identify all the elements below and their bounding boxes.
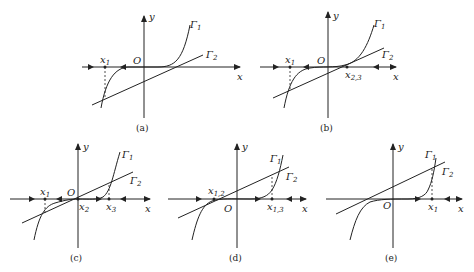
origin-label: O: [224, 203, 232, 214]
caption-e: (e): [385, 253, 397, 263]
x-axis-label: x: [237, 71, 243, 82]
arrow-right: [196, 196, 202, 202]
arrow-right: [96, 196, 102, 202]
y-axis-label: y: [397, 141, 404, 152]
arrow-left: [56, 196, 62, 202]
y-axis-label: y: [82, 141, 89, 152]
x1-label: x1: [428, 201, 438, 214]
gamma1-label: Γ1: [121, 149, 133, 162]
diagram-canvas: y x O Γ1 Γ2 x1 (a) y x O Γ1 Γ2 x1 x2,3: [0, 0, 474, 272]
arrow-right: [273, 64, 279, 70]
panel-b: y x O Γ1 Γ2 x1 x2,3 (b): [260, 10, 399, 133]
caption-d: (d): [229, 253, 242, 263]
x-axis-label: x: [302, 203, 308, 214]
arrow-right: [29, 196, 35, 202]
panel-a: y x O Γ1 Γ2 x1 (a): [82, 11, 243, 133]
x2-label: x2: [79, 201, 90, 214]
y-axis-label: y: [148, 11, 155, 22]
gamma2-label: Γ2: [285, 171, 298, 184]
gamma2-label: Γ2: [129, 175, 142, 188]
arrow-left: [120, 196, 126, 202]
caption-c: (c): [70, 253, 82, 263]
gamma2-label: Γ2: [441, 166, 454, 179]
x1-label: x1: [100, 54, 110, 67]
x1-label: x1: [40, 186, 50, 199]
arrow-left: [373, 64, 379, 70]
x1-label: x1: [285, 54, 295, 67]
arrow-left: [444, 196, 450, 202]
panel-c: y x O Γ1 Γ2 x1 x2 x3 (c): [10, 141, 151, 263]
x13-label: x1,3: [267, 201, 284, 214]
origin-label: O: [383, 200, 391, 211]
arrow-right: [88, 64, 94, 70]
caption-a: (a): [136, 123, 148, 133]
origin-label: O: [317, 55, 325, 66]
x-axis-label: x: [458, 203, 464, 214]
x-axis-label: x: [145, 203, 151, 214]
x3-label: x3: [106, 201, 117, 214]
y-axis-label: y: [332, 10, 339, 21]
gamma1-label: Γ1: [189, 19, 201, 32]
x12-label: x1,2: [208, 185, 225, 198]
gamma2-label: Γ2: [381, 49, 394, 62]
origin-label: O: [133, 55, 141, 66]
x-axis-label: x: [393, 71, 399, 82]
gamma1-label: Γ1: [424, 149, 436, 162]
x23-label: x2,3: [345, 69, 362, 82]
arrow-right: [255, 196, 261, 202]
gamma1-label: Γ1: [373, 18, 385, 31]
arrow-left: [286, 196, 292, 202]
gamma2-label: Γ2: [205, 49, 218, 62]
caption-b: (b): [320, 123, 333, 133]
panel-d: y x O Γ1 Γ2 x1,2 x1,3 (d): [168, 141, 308, 263]
gamma1-label: Γ1: [269, 153, 281, 166]
origin-label: O: [67, 187, 75, 198]
y-axis-label: y: [241, 141, 248, 152]
panel-e: y x O Γ1 Γ2 x1 (e): [326, 141, 464, 263]
